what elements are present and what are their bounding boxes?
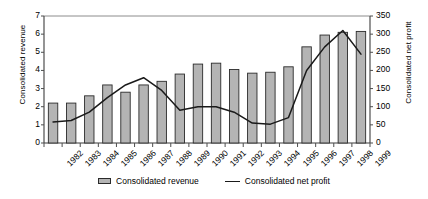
legend-item-net-profit: Consolidated net profit [225,176,330,186]
bar-1982 [48,103,57,143]
chart-legend: Consolidated revenue Consolidated net pr… [0,176,428,186]
bar-1999 [356,31,365,143]
bar-1991 [211,63,220,143]
bar-1996 [302,47,311,143]
chart-container: Consolidated revenue Consolidated net pr… [0,0,428,199]
bar-1984 [85,96,94,143]
bar-1993 [248,73,257,143]
legend-label-net-profit: Consolidated net profit [245,176,330,186]
bar-1986 [121,92,130,143]
plot-area [0,0,428,199]
bar-1990 [193,64,202,143]
line-swatch-icon [225,181,240,182]
legend-label-revenue: Consolidated revenue [116,176,199,186]
bar-1985 [103,85,112,143]
bar-1995 [284,67,293,143]
bar-1994 [266,72,275,143]
bar-1992 [229,70,238,143]
bar-1987 [139,85,148,143]
legend-item-revenue: Consolidated revenue [98,176,199,186]
bar-swatch-icon [98,178,111,184]
bar-1989 [175,74,184,143]
bar-1983 [66,103,75,143]
net-profit-line [53,31,361,125]
bar-1998 [338,32,347,143]
